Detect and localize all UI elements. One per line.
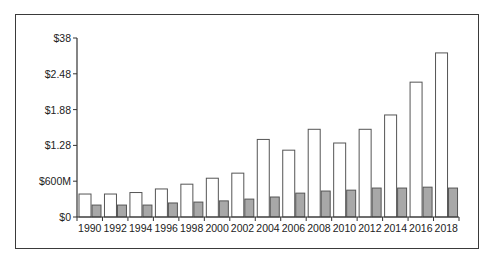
bar-series2-2018 <box>449 188 458 217</box>
bar-series2-2014 <box>398 188 407 217</box>
x-tick-label: 1996 <box>154 222 178 234</box>
bar-series2-2012 <box>372 188 381 217</box>
y-tick-label: $38 <box>53 32 71 44</box>
x-tick-label: 2012 <box>358 222 382 234</box>
bar-series2-2006 <box>296 193 305 217</box>
bar-series1-2000 <box>206 178 218 217</box>
bar-series2-1992 <box>117 205 126 217</box>
bar-series2-1996 <box>168 203 177 217</box>
bar-series2-2002 <box>245 199 254 217</box>
y-tick-label: $0 <box>59 211 71 223</box>
y-tick-label: $1.88 <box>45 104 71 116</box>
bar-series1-2006 <box>283 150 295 217</box>
bar-series1-2018 <box>436 53 448 217</box>
y-tick-label: $2.48 <box>45 68 71 80</box>
y-tick-label: $600M <box>39 175 71 187</box>
bar-series1-1998 <box>181 184 193 217</box>
x-tick-label: 2018 <box>435 222 459 234</box>
bar-series2-1998 <box>194 202 203 217</box>
bar-series1-2008 <box>308 129 320 217</box>
bar-chart: 1990199219941996199820002002200420062008… <box>0 0 494 265</box>
bar-series2-2004 <box>270 197 279 217</box>
x-tick-label: 1994 <box>129 222 153 234</box>
bar-series1-2014 <box>385 115 397 217</box>
x-tick-label: 2016 <box>409 222 433 234</box>
bar-series1-2002 <box>232 173 244 217</box>
x-tick-label: 2008 <box>307 222 331 234</box>
x-tick-label: 2002 <box>231 222 255 234</box>
bar-series1-1990 <box>79 194 91 217</box>
bar-series1-2010 <box>334 143 346 217</box>
x-tick-label: 1998 <box>180 222 204 234</box>
x-tick-label: 1990 <box>78 222 102 234</box>
bar-series2-2000 <box>219 201 228 217</box>
bar-series1-2016 <box>410 82 422 217</box>
bar-series1-2012 <box>359 129 371 217</box>
bar-series1-1996 <box>155 189 167 217</box>
bar-series1-2004 <box>257 139 269 217</box>
x-tick-label: 2006 <box>282 222 306 234</box>
bar-series2-2016 <box>423 187 432 217</box>
bars-group <box>79 53 458 217</box>
bar-series2-1990 <box>92 205 101 217</box>
bar-series2-2008 <box>321 191 330 217</box>
x-tick-label: 2010 <box>333 222 357 234</box>
x-tick-label: 2004 <box>256 222 280 234</box>
bar-series1-1994 <box>130 193 142 217</box>
x-tick-label: 2014 <box>384 222 408 234</box>
bar-series2-1994 <box>143 205 152 217</box>
y-tick-label: $1.28 <box>45 139 71 151</box>
bar-series2-2010 <box>347 190 356 217</box>
bar-series1-1992 <box>104 194 116 217</box>
x-tick-label: 1992 <box>104 222 128 234</box>
x-tick-label: 2000 <box>205 222 229 234</box>
